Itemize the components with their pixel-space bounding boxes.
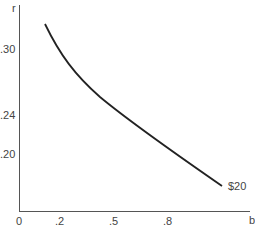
x-tick-8: .8 (163, 216, 172, 227)
series-curve-20 (45, 24, 222, 186)
x-origin-label: 0 (16, 216, 22, 227)
y-tick-24: .24 (0, 110, 15, 121)
x-axis-label: b (249, 215, 255, 226)
y-axis-label: r (12, 3, 16, 14)
chart-plot (0, 0, 255, 229)
x-tick-5: .5 (109, 216, 118, 227)
y-tick-20: .20 (0, 149, 15, 160)
y-tick-30: .30 (0, 44, 15, 55)
x-tick-2: .2 (55, 216, 64, 227)
series-label: $20 (228, 181, 246, 192)
